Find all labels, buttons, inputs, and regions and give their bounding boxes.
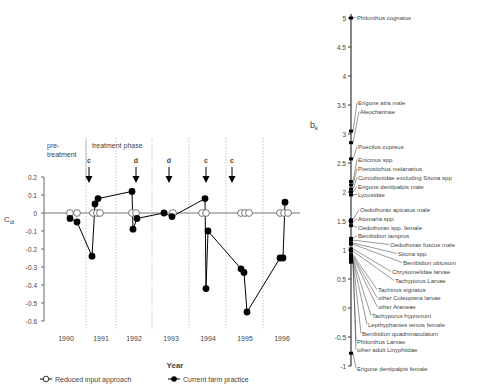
species-label: Tachyporus Larvae [395, 278, 446, 284]
reduced-input-marker [74, 210, 81, 217]
species-marker [349, 184, 353, 187]
species-label: Atomaria spp. [358, 216, 395, 222]
reduced-input-marker [246, 210, 253, 217]
bk-tick-label: 1.5 [337, 218, 346, 225]
species-leader-line [353, 18, 356, 19]
species-marker [349, 224, 353, 227]
species-marker [349, 250, 353, 253]
species-leader-line [353, 226, 357, 228]
current-practice-marker [89, 253, 96, 260]
treatment-annotation: c [87, 157, 91, 164]
bk-tick-label: 0 [342, 305, 346, 312]
current-practice-marker [161, 210, 168, 217]
x-tick-label: 1992 [126, 335, 142, 342]
legend-marker-current [171, 376, 177, 382]
species-marker [349, 188, 353, 191]
species-marker [349, 157, 353, 160]
species-marker [349, 193, 353, 196]
current-practice-marker [130, 226, 137, 233]
y-tick-label: -0.4 [26, 282, 38, 289]
current-practice-marker [74, 219, 81, 226]
species-marker [349, 130, 353, 133]
species-label: Erigone dentipalpis female [357, 366, 428, 372]
species-leader-line [353, 240, 389, 244]
species-leader-line [353, 112, 359, 143]
current-practice-marker [169, 213, 176, 220]
current-practice-marker [67, 215, 74, 222]
bk-tick-label: 2 [342, 189, 346, 196]
current-practice-marker [134, 215, 141, 222]
y-axis-title: Cdt [4, 215, 15, 225]
species-marker [349, 261, 353, 264]
bk-tick-label: 4 [342, 73, 346, 80]
arrow-head-icon [86, 176, 93, 183]
series-current-line [70, 191, 285, 312]
chart-canvas: 0.20.10-0.1-0.2-0.3-0.4-0.5-0.6199019911… [0, 0, 477, 387]
species-marker [349, 180, 353, 183]
arrow-head-icon [203, 176, 210, 183]
species-label: Aleocharinae [360, 109, 396, 115]
treatment-annotation: c [230, 157, 234, 164]
species-leader-line [353, 103, 357, 132]
species-label: Lycosidae [358, 192, 385, 198]
right-chart: 54.543.532.521.510.50-0.5-1bkPhilonthus … [310, 14, 456, 372]
y-tick-label: 0.1 [28, 192, 37, 199]
species-label: Bembidion lampros [358, 233, 409, 239]
y-tick-label: -0.2 [26, 246, 38, 253]
bk-tick-label: 4.5 [337, 44, 346, 51]
species-label: Enicmus spp. [358, 157, 394, 163]
y-tick-label: 0 [33, 210, 37, 217]
treatment-annotation: c [204, 157, 208, 164]
phase-label-treatment: treatment phase [92, 142, 143, 150]
y-tick-label: -0.5 [26, 300, 38, 307]
species-label: Oedothorax fuscus male [390, 242, 456, 248]
species-label: Philonthus Larvae [357, 339, 406, 345]
species-label: Curculionidae excluding Sitona spp [358, 175, 452, 181]
reduced-input-marker [285, 210, 292, 217]
arrow-head-icon [229, 176, 236, 183]
bk-tick-label: -1 [340, 363, 346, 370]
phase-label-pre: pre- [47, 142, 60, 150]
bk-axis-title: bk [310, 120, 319, 131]
species-label: Erigone atra male [358, 100, 406, 106]
species-label: Erigone dentipalpis male [358, 184, 424, 190]
y-tick-label: -0.3 [26, 264, 38, 271]
x-tick-label: 1991 [93, 335, 109, 342]
species-marker [349, 243, 353, 246]
species-label: other Araneae [378, 304, 416, 310]
species-marker [349, 239, 353, 242]
species-leader-line [353, 236, 357, 239]
species-marker [349, 17, 353, 20]
x-tick-label: 1996 [274, 335, 290, 342]
species-label: Pterostichus melanarius [358, 166, 422, 172]
current-practice-marker [95, 195, 102, 202]
x-tick-label: 1995 [237, 335, 253, 342]
species-leader-line [353, 257, 377, 307]
bk-tick-label: 2.5 [337, 160, 346, 167]
current-practice-marker [205, 228, 212, 235]
species-label: Sitona spp. [398, 251, 428, 257]
species-marker [349, 221, 353, 224]
species-marker [349, 191, 353, 194]
species-label: Lepthyphantes tenuis female [368, 322, 445, 328]
reduced-input-marker [97, 210, 104, 217]
species-label: Oedothorax spp. female [358, 225, 423, 231]
bk-tick-label: -0.5 [335, 334, 347, 341]
current-practice-marker [280, 255, 287, 262]
current-practice-marker [202, 195, 209, 202]
species-leader-line [353, 249, 391, 272]
species-label: Bembidion quadrimaculatum [362, 331, 438, 337]
legend-label-reduced: Reduced input approach [55, 376, 131, 384]
species-label: Chrysomelidae larvae [392, 269, 451, 275]
species-leader-line [353, 147, 357, 159]
treatment-annotation: d [167, 157, 171, 164]
bk-tick-label: 5 [342, 15, 346, 22]
current-practice-marker [203, 285, 210, 292]
x-tick-label: 1993 [163, 335, 179, 342]
left-chart: 0.20.10-0.1-0.2-0.3-0.4-0.5-0.6199019911… [4, 138, 300, 384]
reduced-input-marker [203, 210, 210, 217]
bk-tick-label: 0.5 [337, 276, 346, 283]
legend-label-current: Current farm practice [183, 376, 249, 384]
current-practice-marker [129, 188, 136, 195]
species-label: Oedothorax apicatus male [360, 207, 431, 213]
